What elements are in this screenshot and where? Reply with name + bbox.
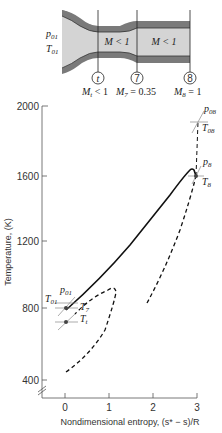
ytick-2000: 2000 [17, 101, 40, 112]
xtick-2: 2 [150, 402, 156, 413]
xtick-1: 1 [106, 402, 112, 413]
station-id-t: t [97, 73, 100, 84]
state-point-01 [55, 297, 78, 316]
ytick-1200: 1200 [17, 236, 40, 247]
diagram-canvas: t 7 8 M < 1 M < 1 p01 T01 Mt < 1 M7 = 0.… [0, 0, 222, 433]
label-p08: p08 [203, 103, 217, 116]
xtick-3: 3 [194, 402, 200, 413]
label-T8: T8 [202, 176, 212, 189]
station-id-8: 8 [187, 73, 193, 84]
label-p8: p8 [202, 156, 212, 169]
label-T08: T08 [202, 122, 215, 135]
mach-label-t: Mt < 1 [81, 86, 108, 99]
ytick-400: 400 [22, 375, 39, 386]
station-id-7: 7 [134, 73, 140, 84]
inlet-label-T01: T01 [46, 43, 59, 56]
mach-label-8: M8 = 1 [173, 86, 201, 99]
region-label-duct: M < 1 [150, 36, 176, 47]
label-Tt: Tt [80, 313, 89, 326]
state-point-t [55, 314, 78, 330]
y-ticks: 2000 1600 1200 800 400 [17, 101, 48, 386]
dashed-curve-left [66, 288, 116, 372]
inlet-label-p01: p01 [45, 28, 58, 41]
ytick-800: 800 [22, 303, 39, 314]
label-T01: T01 [45, 293, 58, 306]
dashed-stagnation-line [196, 122, 198, 176]
x-ticks: 0 1 2 3 [62, 393, 200, 413]
dashed-curve-right [147, 176, 196, 303]
xtick-0: 0 [62, 402, 68, 413]
x-axis-title: Nondimensional entropy, (s* − s)/R [60, 417, 200, 427]
ytick-1600: 1600 [17, 171, 40, 182]
ts-chart: 2000 1600 1200 800 400 0 1 2 3 Nondimens… [3, 101, 217, 427]
duct-schematic: t 7 8 M < 1 M < 1 p01 T01 Mt < 1 M7 = 0.… [45, 10, 201, 99]
y-axis-title: Temperature, (K) [3, 218, 13, 286]
region-label-throat: M < 1 [103, 36, 129, 47]
mach-label-7: M7 = 0.35 [115, 86, 156, 99]
label-p01: p01 [59, 284, 72, 297]
